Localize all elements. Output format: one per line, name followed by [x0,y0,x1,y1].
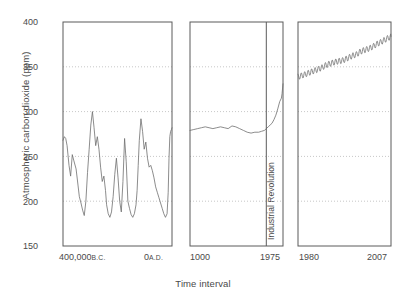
panel-frame-1 [63,22,172,246]
panel-frame-3 [298,22,391,246]
plot-area [0,0,413,301]
data-series [63,34,391,217]
panel-frame-2 [190,22,283,246]
series-modern-keeling-curve [298,34,391,79]
gridlines [63,67,391,201]
series-millennium-record [190,84,283,133]
panel-frames [63,22,391,246]
co2-three-panel-chart: Atmospheric carbon dioxide (ppm) Time in… [0,0,413,301]
